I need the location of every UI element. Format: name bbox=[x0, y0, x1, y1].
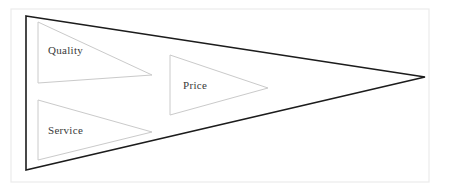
main-funnel-triangle bbox=[26, 16, 425, 170]
diagram-canvas: Quality Price Service bbox=[0, 0, 450, 191]
inner-triangle-label-quality: Quality bbox=[48, 44, 83, 56]
diagram-svg: Quality Price Service bbox=[0, 0, 450, 191]
inner-triangle-label-price: Price bbox=[183, 79, 207, 91]
outer-frame bbox=[11, 9, 429, 182]
inner-triangle-label-service: Service bbox=[48, 124, 83, 136]
